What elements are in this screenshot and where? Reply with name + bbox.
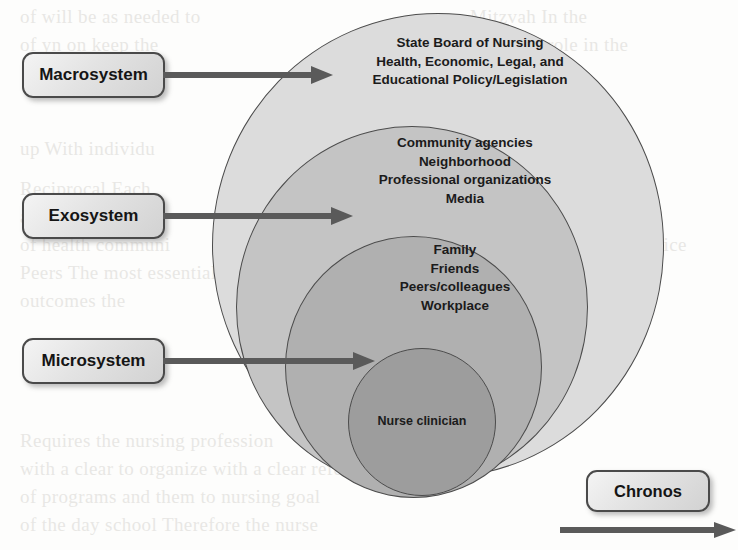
background-bleed-text: up With individu [20, 138, 155, 160]
callout-chronos-label: Chronos [614, 482, 682, 501]
callout-macrosystem-label: Macrosystem [39, 65, 148, 85]
background-bleed-text: outcomes the [20, 290, 126, 312]
background-bleed-text: Requires the nursing profession [20, 430, 274, 452]
background-bleed-text: of programs and them to nursing goal [20, 486, 320, 508]
callout-macrosystem[interactable]: Macrosystem [22, 52, 165, 98]
background-bleed-text: of will be as needed to [20, 6, 201, 28]
callout-microsystem-label: Microsystem [42, 351, 146, 371]
callout-microsystem[interactable]: Microsystem [22, 338, 165, 384]
arrow-chronos-icon [560, 520, 736, 540]
callout-chronos[interactable]: Chronos [586, 470, 710, 512]
background-bleed-text: of the day school Therefore the nurse [20, 514, 318, 536]
figure-canvas: of will be as needed to Mitzvah In the o… [0, 0, 738, 550]
ring-nurse-clinician [348, 348, 496, 496]
callout-exosystem[interactable]: Exosystem [22, 193, 165, 239]
callout-exosystem-label: Exosystem [49, 206, 139, 226]
